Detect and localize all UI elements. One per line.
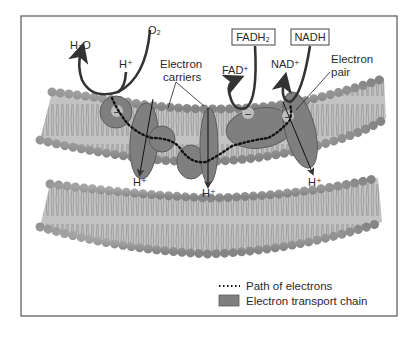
h-plus-top-label: H⁺: [119, 58, 133, 70]
electron-carriers-label-2: carriers: [163, 71, 202, 83]
legend-path-label: Path of electrons: [246, 280, 333, 292]
nadh-label: NADH: [294, 31, 325, 43]
fadh2-label: FADH₂: [236, 31, 270, 43]
h-plus-label-1: H⁺: [133, 176, 147, 188]
h-plus-label-3: H⁺: [308, 176, 322, 188]
legend-chain-swatch: [219, 295, 239, 306]
h2o-label: H₂O: [70, 39, 91, 51]
h-plus-label-2: H⁺: [202, 187, 216, 199]
protein-complex-2: [200, 108, 218, 184]
legend-chain-label: Electron transport chain: [246, 295, 367, 307]
electron-pair-label-1: Electron: [331, 53, 373, 65]
o2-label: O₂: [148, 24, 161, 36]
electron-pair-label-2: pair: [331, 66, 350, 78]
electron-transport-diagram: – – – H₂O O₂ H⁺ Electron carriers FADH₂ …: [0, 0, 414, 338]
electron-carriers-label-1: Electron: [160, 58, 202, 70]
nad-plus-label: NAD⁺: [271, 58, 300, 70]
fad-plus-label: FAD⁺: [222, 64, 249, 76]
